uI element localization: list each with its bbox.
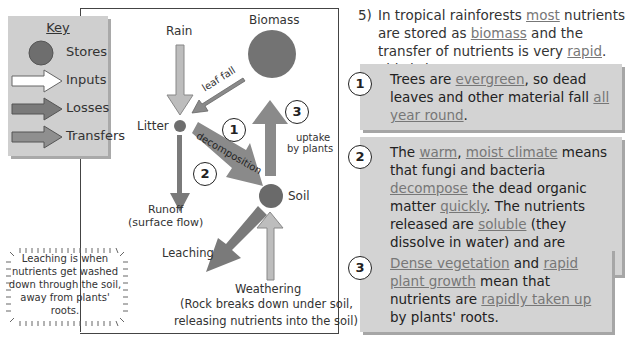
reason-text-3: Dense vegetation and rapid plant growth … (390, 254, 604, 326)
text-span: The (390, 144, 419, 160)
runoff-label: Runoff (surface flow) (128, 203, 203, 229)
key-label: Stores (66, 44, 107, 59)
underlined-keyword: rapid (567, 43, 602, 59)
loss-arrow-icon (10, 96, 66, 122)
underlined-keyword: soluble (478, 216, 526, 232)
underlined-keyword: moist climate (466, 144, 558, 160)
marker-3: 3 (285, 100, 309, 124)
reason-marker-1: 1 (348, 72, 372, 96)
text-span: In tropical rainforests (378, 7, 526, 23)
key-label: Inputs (66, 72, 106, 87)
underlined-keyword: most (526, 7, 560, 23)
key-panel: Key Stores Inputs Losses Transfers (8, 16, 108, 156)
key-item-inputs: Inputs (8, 68, 108, 94)
underlined-keyword: Dense vegetation (390, 255, 509, 271)
leaching-note-line3: down through the soil, (6, 278, 124, 291)
key-title: Key (8, 20, 108, 35)
key-label: Losses (66, 100, 109, 115)
biomass-label: Biomass (249, 13, 299, 27)
underlined-keyword: decompose (390, 180, 468, 196)
underlined-keyword: biomass (471, 25, 527, 41)
runoff-label-line1: Runoff (128, 203, 203, 216)
weathering-note-line1: (Rock breaks down under soil, (180, 297, 353, 311)
transfer-arrow-icon (10, 124, 66, 150)
key-item-stores: Stores (8, 40, 108, 66)
marker-1: 1 (222, 118, 246, 142)
reason-text-1: Trees are evergreen, so dead leaves and … (390, 70, 614, 124)
text-span: , (457, 144, 466, 160)
reason-marker-2: 2 (348, 145, 372, 169)
underlined-keyword: warm (419, 144, 457, 160)
leaching-note-line2: nutrients get washed (6, 265, 124, 278)
key-item-losses: Losses (8, 96, 108, 122)
rain-label: Rain (166, 24, 192, 38)
reason-box-3: Dense vegetation and rapid plant growth … (360, 248, 612, 332)
weathering-label: Weathering (235, 282, 301, 296)
leaching-note-line4: away from plants' roots. (6, 291, 124, 317)
reason-marker-3: 3 (348, 256, 372, 280)
key-item-transfers: Transfers (8, 124, 108, 150)
text-span: Trees are (390, 71, 456, 87)
weathering-note-line2: releasing nutrients into the soil) (174, 314, 358, 328)
input-arrow-icon (10, 68, 66, 94)
underlined-keyword: rapidly taken up (481, 291, 591, 307)
leaching-note: Leaching is when nutrients get washed do… (6, 250, 124, 318)
text-span: and (509, 255, 543, 271)
marker-2: 2 (193, 162, 217, 186)
underlined-keyword: evergreen (456, 71, 525, 87)
key-label: Transfers (66, 128, 125, 143)
litter-label: Litter (137, 119, 169, 133)
leaching-label: Leaching (162, 246, 214, 260)
store-circle-icon (14, 40, 64, 66)
uptake-label-line1: uptake (293, 132, 333, 143)
text-span: . (464, 107, 468, 123)
leaching-note-line1: Leaching is when (6, 252, 124, 265)
reason-box-1: Trees are evergreen, so dead leaves and … (360, 64, 622, 130)
runoff-label-line2: (surface flow) (128, 216, 203, 229)
uptake-label: uptake by plants (287, 132, 333, 154)
text-span: by plants' roots. (390, 309, 499, 325)
soil-label: Soil (288, 189, 310, 203)
uptake-label-line2: by plants (287, 143, 333, 154)
underlined-keyword: quickly (440, 198, 486, 214)
question-number: 5) (358, 6, 372, 24)
